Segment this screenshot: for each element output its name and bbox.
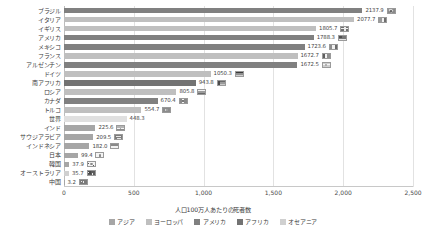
legend-item[interactable]: ヨーロッパ <box>146 219 184 225</box>
bar-row[interactable]: 805.8 <box>64 89 413 95</box>
flag-japan-icon <box>95 152 104 158</box>
bar[interactable] <box>64 98 158 104</box>
bar-row[interactable]: 1805.7 <box>64 26 413 32</box>
bar[interactable] <box>64 89 176 95</box>
legend-item[interactable]: アフリカ <box>237 219 269 225</box>
bar[interactable] <box>64 153 78 159</box>
legend-swatch-icon <box>146 219 152 225</box>
bar-value-label: 1672.5 <box>300 62 318 67</box>
category-label: インドネシア <box>26 143 61 149</box>
category-label: 南アフリカ <box>32 80 61 86</box>
bar-row[interactable]: 37.9 <box>64 162 413 168</box>
category-label: 世界 <box>49 116 61 122</box>
legend-label: オセアニア <box>288 219 317 225</box>
flag-brazil-icon <box>387 8 396 14</box>
category-label: メキシコ <box>38 44 61 50</box>
legend-label: アメリカ <box>203 219 226 225</box>
bar-value-label: 3.2 <box>67 180 75 185</box>
category-label: インド <box>44 125 61 131</box>
bar[interactable] <box>64 26 316 32</box>
flag-south-korea-icon <box>87 161 96 167</box>
flag-saudi-arabia-icon <box>114 134 123 140</box>
bar-value-label: 1050.3 <box>214 71 232 76</box>
bar-row[interactable]: 1788.3 <box>64 35 413 41</box>
bar[interactable] <box>64 17 354 23</box>
bar[interactable] <box>64 143 89 149</box>
flag-russia-icon <box>197 89 206 95</box>
bar-value-label: 1788.3 <box>317 35 335 40</box>
bar-row[interactable]: 1672.7 <box>64 53 413 59</box>
bar-value-label: 1805.7 <box>319 26 337 31</box>
bar[interactable] <box>64 53 298 59</box>
x-tick-label: 0 <box>62 190 66 196</box>
bar[interactable] <box>64 171 69 177</box>
plot-area: 2137.92077.71805.71788.31723.61672.71672… <box>64 6 413 187</box>
bar-row[interactable]: 2077.7 <box>64 17 413 23</box>
bar-row[interactable]: 182.0 <box>64 143 413 149</box>
legend-item[interactable]: アメリカ <box>194 219 226 225</box>
legend-item[interactable]: オセアニア <box>280 219 318 225</box>
bar[interactable] <box>64 80 196 86</box>
bar-chart: ブラジルイタリアイギリスアメリカメキシコフランスアルゼンチンドイツ南アフリカロシ… <box>0 0 426 243</box>
x-axis-ticks: 05001,0001,5002,0002,500 <box>64 190 413 200</box>
chart-legend: アジアヨーロッパアメリカアフリカオセアニア <box>0 219 426 225</box>
flag-turkey-icon <box>162 107 171 113</box>
bar[interactable] <box>64 125 95 131</box>
category-label: イタリア <box>38 17 61 23</box>
bar[interactable] <box>64 116 127 122</box>
legend-swatch-icon <box>237 219 243 225</box>
bar-rows: 2137.92077.71805.71788.31723.61672.71672… <box>64 6 413 187</box>
flag-italy-icon <box>378 17 387 23</box>
bar[interactable] <box>64 44 305 50</box>
bar-row[interactable]: 2137.9 <box>64 8 413 14</box>
bar-row[interactable]: 1672.5 <box>64 62 413 68</box>
bar-value-label: 554.7 <box>144 107 159 112</box>
category-label: 中国 <box>49 179 61 185</box>
category-label: ブラジル <box>38 8 61 14</box>
x-axis-title: 人口100万人あたりの死者数 <box>0 205 426 214</box>
bar-value-label: 670.4 <box>161 98 176 103</box>
bar-value-label: 1672.7 <box>301 53 319 58</box>
bar-value-label: 225.6 <box>98 125 113 130</box>
legend-label: アフリカ <box>245 219 268 225</box>
bar-row[interactable]: 35.7 <box>64 171 413 177</box>
category-label: ドイツ <box>44 71 61 77</box>
bar-value-label: 448.3 <box>130 116 145 121</box>
x-tick-label: 2,500 <box>404 190 421 196</box>
bar-row[interactable]: 1723.6 <box>64 44 413 50</box>
x-tick-label: 1,000 <box>195 190 212 196</box>
bar-row[interactable]: 225.6 <box>64 125 413 131</box>
category-label: ロシア <box>44 89 61 95</box>
flag-france-icon <box>322 53 331 59</box>
bar[interactable] <box>64 8 362 14</box>
bar[interactable] <box>64 134 93 140</box>
legend-item[interactable]: アジア <box>109 219 135 225</box>
bar[interactable] <box>64 107 141 113</box>
bar-row[interactable]: 99.4 <box>64 153 413 159</box>
bar-row[interactable]: 554.7 <box>64 107 413 113</box>
flag-china-icon <box>79 179 88 185</box>
legend-label: アジア <box>117 219 134 225</box>
flag-germany-icon <box>235 71 244 77</box>
flag-argentina-icon <box>322 62 331 68</box>
category-label: トルコ <box>44 107 61 113</box>
legend-swatch-icon <box>280 219 286 225</box>
bar[interactable] <box>64 62 297 68</box>
bar[interactable] <box>64 162 69 168</box>
category-label: 韓国 <box>49 161 61 167</box>
bar[interactable] <box>64 35 314 41</box>
bar[interactable] <box>64 71 211 77</box>
bar-value-label: 99.4 <box>81 153 93 158</box>
bar-value-label: 2077.7 <box>357 17 375 22</box>
bar-row[interactable]: 670.4 <box>64 98 413 104</box>
x-tick-label: 2,000 <box>335 190 352 196</box>
bar-row[interactable]: 448.3 <box>64 116 413 122</box>
bar-value-label: 805.8 <box>179 89 194 94</box>
x-tick-label: 500 <box>128 190 139 196</box>
bar-row[interactable]: 1050.3 <box>64 71 413 77</box>
bar-row[interactable]: 943.8 <box>64 80 413 86</box>
bar-row[interactable]: 209.5 <box>64 134 413 140</box>
bar-row[interactable]: 3.2 <box>64 180 413 186</box>
legend-swatch-icon <box>194 219 200 225</box>
flag-indonesia-icon <box>110 143 119 149</box>
